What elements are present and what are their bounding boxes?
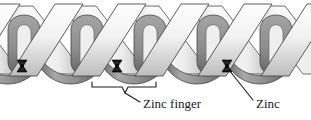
zinc-finger-figure: Zinc finger Zinc <box>0 0 311 120</box>
zinc-label: Zinc <box>256 96 280 111</box>
zinc-finger-diagram: Zinc finger Zinc <box>0 0 311 120</box>
zinc-finger-label: Zinc finger <box>143 96 202 111</box>
